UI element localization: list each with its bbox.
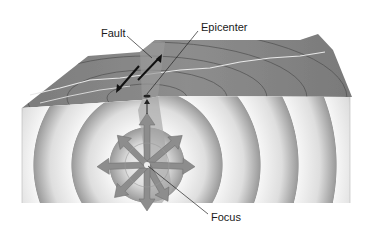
epicenter-marker bbox=[144, 94, 151, 97]
focus-label: Focus bbox=[211, 212, 241, 223]
fault-label: Fault bbox=[101, 28, 125, 39]
cross-section-face bbox=[22, 90, 352, 205]
earthquake-diagram: Fault Epicenter Focus bbox=[0, 0, 371, 237]
block-diagram-graphic bbox=[0, 0, 371, 237]
epicenter-label: Epicenter bbox=[201, 22, 247, 33]
